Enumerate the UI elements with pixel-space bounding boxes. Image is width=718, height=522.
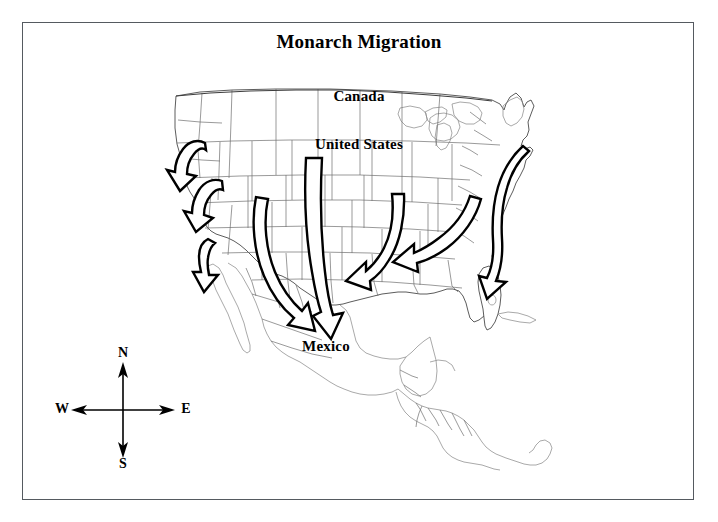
compass-label-south: S — [113, 456, 133, 472]
map-label-united-states: United States — [0, 136, 718, 153]
united-states-outline — [175, 89, 534, 330]
compass-rose — [71, 362, 175, 458]
compass-label-west: W — [52, 401, 72, 417]
migration-arrow-west-3 — [193, 239, 218, 292]
figure-page: .coast { fill: #ffffff; stroke: #4a4a4a;… — [0, 0, 718, 522]
page-title: Monarch Migration — [0, 31, 718, 53]
compass-label-north: N — [113, 345, 133, 361]
map-graphic: .coast { fill: #ffffff; stroke: #4a4a4a;… — [0, 0, 718, 522]
compass-label-east: E — [176, 401, 196, 417]
map-label-mexico: Mexico — [246, 338, 406, 355]
map-label-canada: Canada — [0, 88, 718, 105]
